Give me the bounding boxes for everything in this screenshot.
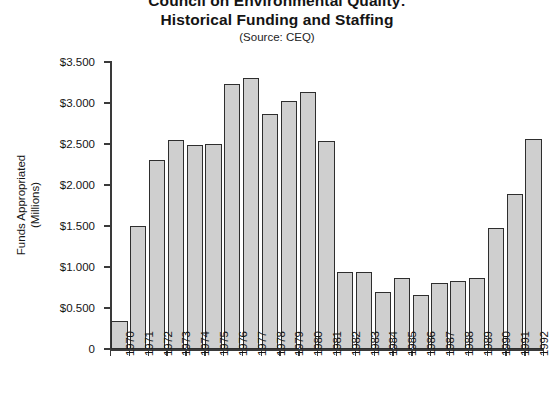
x-axis-tick-label: 1983 [369,331,381,356]
x-axis-tick-label: 1974 [199,331,211,356]
x-axis-tick-label: 1981 [331,331,343,356]
y-axis-title-line-1: Funds Appropriated [15,155,27,255]
y-axis-tick-label: $2.000 [60,179,95,191]
x-axis-tick-label: 1987 [444,331,456,356]
bar [187,145,203,349]
y-axis-tick: $3.500 [104,61,112,63]
x-axis-tick-label: 1977 [256,331,268,356]
x-axis-tick-label: 1989 [482,331,494,356]
y-axis-tick: $2.500 [104,143,112,145]
x-axis-tick-label: 1992 [538,331,550,356]
y-axis-tick: $2.000 [104,184,112,186]
x-axis-tick-label: 1986 [425,331,437,356]
y-axis-tick-label: 0 [89,343,95,355]
chart-title-line-2: Historical Funding and Staffing [0,10,554,29]
bar [149,160,165,349]
y-axis-tick-label: $1.500 [60,220,95,232]
x-axis-tick-label: 1985 [406,331,418,356]
x-axis-tick-label: 1988 [463,331,475,356]
x-axis-tick-label: 1971 [143,331,155,356]
x-axis-tick-label: 1990 [500,331,512,356]
plot-area: $3.500$3.000$2.500$2.000$1.500$1.000$0.5… [110,62,543,349]
bar [507,194,523,349]
x-axis-tick-label: 1973 [180,331,192,356]
x-axis-tick-label: 1978 [275,331,287,356]
y-axis-tick-label: $0.500 [60,302,95,314]
bar [168,140,184,349]
y-axis-tick-label: $1.000 [60,261,95,273]
bar [300,92,316,349]
x-axis-tick-label: 1976 [237,331,249,356]
y-axis-tick-label: $3.000 [60,97,95,109]
chart-title-block: Council on Environmental Quality: Histor… [0,0,554,45]
x-axis-tick-label: 1979 [293,331,305,356]
x-axis-tick-label: 1972 [162,331,174,356]
x-axis-tick-label: 1984 [387,331,399,356]
chart-subtitle: (Source: CEQ) [0,29,554,45]
y-axis-title-line-2: (Millions) [28,155,42,255]
bar [243,78,259,349]
y-axis-line [110,62,112,349]
x-axis-tick-label: 1980 [312,331,324,356]
bar [262,114,278,349]
x-axis-tick-label: 1970 [124,331,136,356]
chart-title-line-1: Council on Environmental Quality: [0,0,554,10]
y-axis-tick: $1.500 [104,225,112,227]
chart-page: Council on Environmental Quality: Histor… [0,0,554,401]
y-axis-tick: $0.500 [104,307,112,309]
bar [318,141,334,349]
x-axis-tick-label: 1982 [350,331,362,356]
x-axis-tick-label: 1991 [519,331,531,356]
bar [205,144,221,349]
y-axis-tick: $1.000 [104,266,112,268]
x-axis-tick [110,349,111,356]
y-axis-tick-label: $2.500 [60,138,95,150]
bar [224,84,240,349]
bar [525,139,541,349]
x-axis-line [110,349,543,351]
x-axis-tick-label: 1975 [218,331,230,356]
y-axis-title: Funds Appropriated (Millions) [8,120,48,290]
bar [281,101,297,349]
y-axis-tick: $3.000 [104,102,112,104]
y-axis-tick-label: $3.500 [60,56,95,68]
